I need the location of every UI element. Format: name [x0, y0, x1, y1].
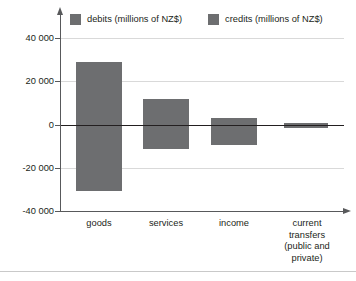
bar-income-debits — [211, 125, 257, 145]
xtick-label-current-transfers-line-3: (public and — [274, 241, 340, 253]
xtick-label-current-transfers-line-1: current — [274, 218, 340, 230]
xtick-label-services: services — [136, 218, 196, 230]
bar-services-debits — [143, 125, 189, 149]
ytick-label-20000: 20 000 — [26, 76, 54, 86]
ytick-mark-minus-40000 — [55, 211, 60, 212]
ytick-label-0: 0 — [49, 120, 54, 130]
bottom-divider — [0, 271, 356, 272]
xtick-label-current-transfers-line-4: private) — [274, 253, 340, 265]
ytick-mark-0 — [55, 125, 60, 126]
xtick-label-goods: goods — [69, 218, 129, 230]
xtick-label-current-transfers-line-2: transfers — [274, 230, 340, 242]
plot-area: 40 000 20 000 0 -20 000 -40 000 goods se… — [0, 0, 356, 281]
bar-goods-debits — [76, 125, 122, 191]
xtick-label-current-transfers: current transfers (public and private) — [274, 218, 340, 264]
gridline-40000 — [61, 38, 344, 39]
ytick-mark-20000 — [55, 81, 60, 82]
x-axis-line — [60, 211, 344, 212]
ytick-mark-minus-20000 — [55, 168, 60, 169]
y-axis-arrow-icon — [57, 7, 63, 15]
ytick-label-40000: 40 000 — [26, 33, 54, 43]
balance-of-payments-chart: debits (millions of NZ$) credits (millio… — [0, 0, 356, 281]
xtick-label-income: income — [204, 218, 264, 230]
ytick-mark-40000 — [55, 38, 60, 39]
ytick-label-minus-20000: -20 000 — [22, 163, 54, 173]
bar-services-credits — [143, 99, 189, 125]
bar-goods-credits — [76, 62, 122, 125]
x-axis-arrow-icon — [343, 208, 351, 214]
y-axis-line — [60, 14, 61, 212]
zero-axis-line — [61, 125, 344, 127]
ytick-label-minus-40000: -40 000 — [22, 206, 54, 216]
